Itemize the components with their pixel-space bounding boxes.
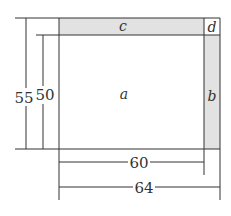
region-label-a: a xyxy=(120,86,128,102)
dim-label-60: 60 xyxy=(129,154,148,172)
dim-label-50: 50 xyxy=(35,86,54,104)
dim-label-64: 64 xyxy=(134,179,153,197)
area-model-diagram: c d a b 55 50 60 64 xyxy=(0,0,231,216)
region-label-d: d xyxy=(208,19,217,35)
dim-label-55: 55 xyxy=(14,89,33,107)
region-label-c: c xyxy=(119,18,127,34)
region-c-fill xyxy=(59,18,204,35)
region-label-b: b xyxy=(208,88,217,104)
